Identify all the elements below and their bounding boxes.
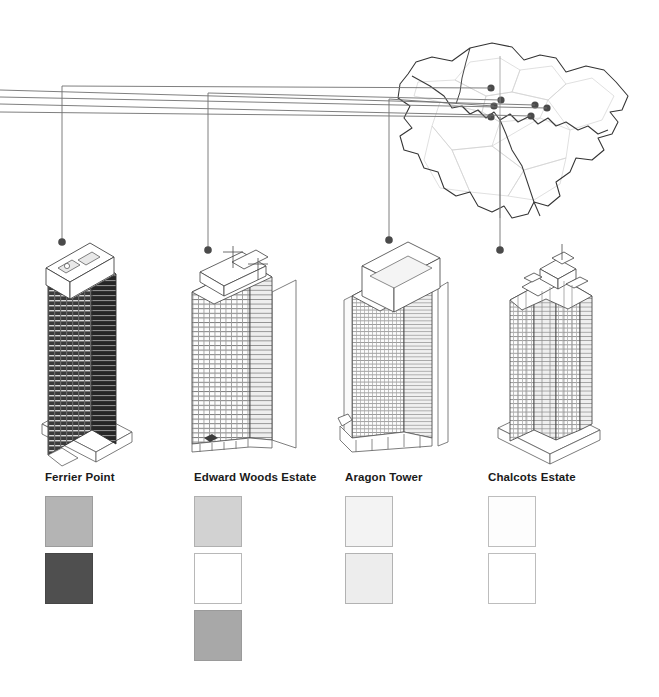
river-thames-south-branch	[500, 120, 540, 216]
swatch-edward-3[interactable]	[194, 610, 242, 661]
legend-column-ferrier-point: Ferrier Point	[45, 470, 115, 610]
legend-label-ferrier-point: Ferrier Point	[45, 470, 115, 484]
leader-chalcots-estate	[0, 112, 491, 117]
legend-column-chalcots-estate: Chalcots Estate	[488, 470, 576, 610]
leader-dot-edward-woods	[204, 246, 212, 254]
tower-chalcots-estate	[498, 244, 600, 464]
tower-aragon-tower	[338, 242, 448, 452]
swatch-edward-2[interactable]	[194, 553, 242, 604]
tower-edward-woods-estate	[192, 246, 296, 452]
legend-column-aragon-tower: Aragon Tower	[345, 470, 423, 610]
edward-woods-side-facade	[250, 264, 272, 440]
leader-end-dots	[58, 236, 504, 254]
leader-dot-ferrier-point	[58, 238, 66, 246]
edward-woods-rear-wall	[272, 280, 296, 448]
london-map	[398, 43, 628, 218]
legend-column-edward-woods-estate: Edward Woods Estate	[194, 470, 316, 667]
swatch-ferrier-2[interactable]	[45, 553, 93, 604]
aragon-rear-fin	[438, 282, 448, 446]
leader-lines	[0, 86, 547, 250]
swatch-stack-ferrier-point	[45, 496, 115, 604]
leader-aragon-tower	[389, 99, 494, 240]
legend-label-edward-woods-estate: Edward Woods Estate	[194, 470, 316, 484]
swatch-stack-edward-woods-estate	[194, 496, 316, 661]
swatch-edward-1[interactable]	[194, 496, 242, 547]
tower-ferrier-point	[42, 243, 132, 466]
legend-label-aragon-tower: Aragon Tower	[345, 470, 423, 484]
swatch-aragon-2[interactable]	[345, 553, 393, 604]
leader-dot-aragon-tower	[385, 236, 393, 244]
swatch-stack-chalcots-estate	[488, 496, 576, 604]
leader-dot-chalcots-estate	[496, 246, 504, 254]
swatch-stack-aragon-tower	[345, 496, 423, 604]
swatch-ferrier-1[interactable]	[45, 496, 93, 547]
legend-label-chalcots-estate: Chalcots Estate	[488, 470, 576, 484]
swatch-chalcots-1[interactable]	[488, 496, 536, 547]
leader-extra-2	[0, 97, 547, 108]
diagram-canvas: Ferrier Point Edward Woods Estate Aragon…	[0, 0, 659, 697]
legend: Ferrier Point Edward Woods Estate Aragon…	[0, 470, 659, 697]
chalcots-roof-massing	[510, 252, 592, 310]
borough-boundaries	[414, 58, 614, 200]
swatch-chalcots-2[interactable]	[488, 553, 536, 604]
river-thames	[412, 76, 608, 134]
ferrier-point-side-facade	[92, 260, 116, 444]
chalcots-right-return	[580, 289, 592, 430]
swatch-aragon-1[interactable]	[345, 496, 393, 547]
